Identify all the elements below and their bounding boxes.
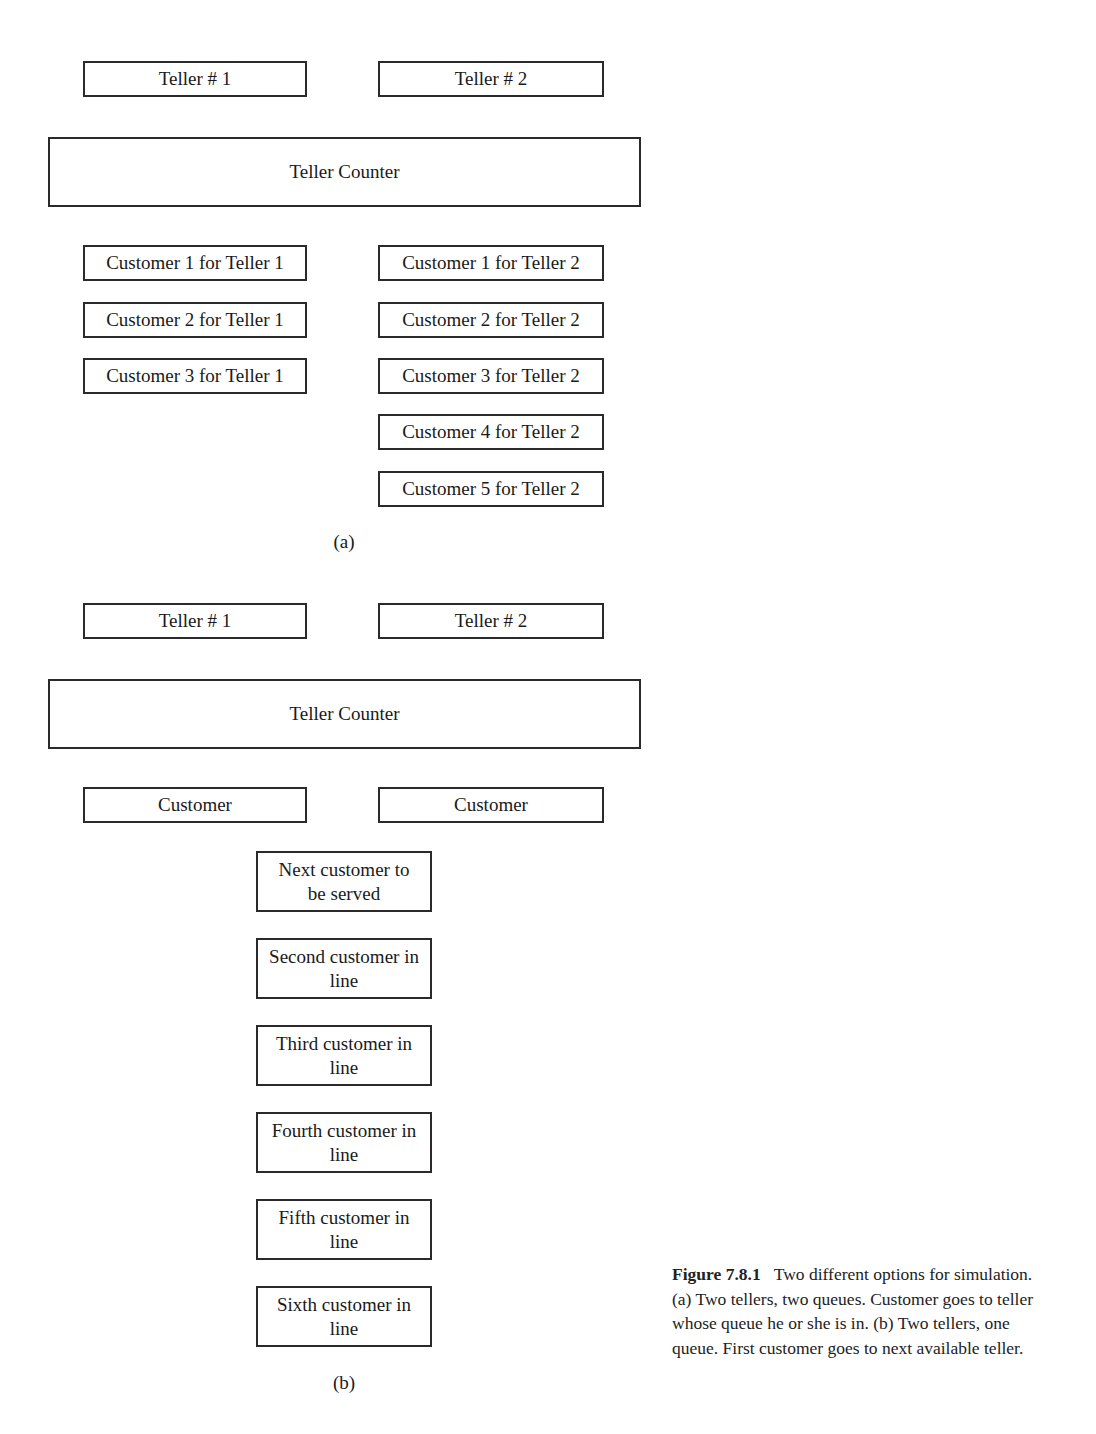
- single-queue-customer: Fourth customer in line: [256, 1112, 432, 1173]
- teller-1-box: Teller # 1: [83, 603, 307, 639]
- served-customer-2: Customer: [378, 787, 604, 823]
- single-queue-customer: Fifth customer in line: [256, 1199, 432, 1260]
- single-queue-customer: Third customer in line: [256, 1025, 432, 1086]
- queue1-customer: Customer 2 for Teller 1: [83, 302, 307, 338]
- queue1-customer: Customer 3 for Teller 1: [83, 358, 307, 394]
- figure-number: Figure 7.8.1: [672, 1264, 761, 1284]
- queue2-customer: Customer 5 for Teller 2: [378, 471, 604, 507]
- single-queue-customer: Second customer in line: [256, 938, 432, 999]
- queue2-customer: Customer 1 for Teller 2: [378, 245, 604, 281]
- teller-2-box: Teller # 2: [378, 603, 604, 639]
- single-queue-customer: Next customer to be served: [256, 851, 432, 912]
- figure-caption: Figure 7.8.1 Two different options for s…: [672, 1262, 1052, 1360]
- subfigure-label-b: (b): [314, 1372, 374, 1394]
- teller-2-box: Teller # 2: [378, 61, 604, 97]
- queue2-customer: Customer 4 for Teller 2: [378, 414, 604, 450]
- subfigure-label-a: (a): [314, 531, 374, 553]
- queue2-customer: Customer 2 for Teller 2: [378, 302, 604, 338]
- single-queue-customer: Sixth customer in line: [256, 1286, 432, 1347]
- teller-counter-box: Teller Counter: [48, 137, 641, 207]
- queue2-customer: Customer 3 for Teller 2: [378, 358, 604, 394]
- served-customer-1: Customer: [83, 787, 307, 823]
- teller-counter-box: Teller Counter: [48, 679, 641, 749]
- teller-1-box: Teller # 1: [83, 61, 307, 97]
- queue1-customer: Customer 1 for Teller 1: [83, 245, 307, 281]
